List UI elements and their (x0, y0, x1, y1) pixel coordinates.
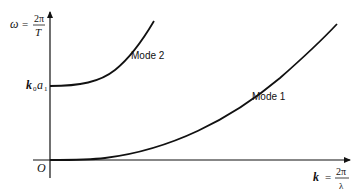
mode-1-label: Mode 1 (252, 91, 286, 102)
k-axis-label: k = 2π λ (313, 166, 349, 191)
mode-1-curve (50, 24, 337, 160)
svg-text:ω: ω (10, 17, 18, 31)
svg-text:k: k (313, 170, 319, 184)
omega-axis-label: ω = 2π T (10, 13, 45, 38)
svg-text:=: = (325, 171, 331, 183)
svg-text:2π: 2π (336, 166, 346, 177)
svg-text:T: T (35, 26, 42, 38)
cutoff-label: k 0 a 1 (26, 78, 48, 93)
svg-text:1: 1 (44, 85, 48, 93)
mode-2-label: Mode 2 (131, 50, 165, 61)
svg-text:λ: λ (339, 181, 344, 191)
dispersion-diagram: ω = 2π T k 0 a 1 O Mode 2 Mode 1 k = 2π … (0, 0, 355, 193)
svg-text:k: k (26, 78, 32, 92)
svg-text:a: a (37, 78, 43, 92)
svg-text:2π: 2π (34, 13, 44, 24)
svg-text:=: = (22, 18, 28, 30)
origin-label: O (37, 161, 46, 175)
